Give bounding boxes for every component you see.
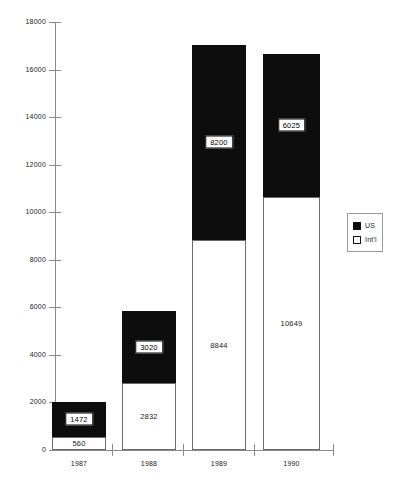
legend-swatch-us-icon <box>353 222 361 230</box>
y-axis-tick-label-text: 18000 <box>12 18 46 26</box>
x-axis-tick <box>183 444 184 456</box>
legend-item-us: US <box>353 219 382 233</box>
data-label-us-1987: 1472 <box>65 413 93 426</box>
y-axis-tick-label: 10000 <box>8 208 46 216</box>
stacked-bar-chart: 0200040006000800010000120001400016000180… <box>0 0 393 483</box>
y-axis-tick-label-text: 12000 <box>12 161 46 169</box>
y-axis-tick-label-text: 4000 <box>12 351 46 359</box>
legend-item-intl: Int'l <box>353 233 382 247</box>
x-axis-tick <box>112 444 113 456</box>
bar-segment-intl-1987: 560 <box>52 437 106 450</box>
bar-segment-intl-1990: 10649 <box>263 197 320 450</box>
y-axis-tick-label: 2000 <box>8 398 46 406</box>
bar-segment-us-1988: 3020 <box>122 311 176 383</box>
x-axis-category-label: 1988 <box>114 459 184 468</box>
data-label-intl-1990: 10649 <box>281 319 303 328</box>
bar-1990: 106496025 <box>263 22 320 450</box>
data-label-intl-1989: 8844 <box>210 340 228 349</box>
y-axis-tick-label: 14000 <box>8 113 46 121</box>
y-axis-tick-label-text: 2000 <box>12 398 46 406</box>
y-axis-tick-label: 12000 <box>8 161 46 169</box>
x-axis-category-label: 1989 <box>184 459 254 468</box>
bar-segment-us-1989: 8200 <box>192 45 246 240</box>
bar-segment-us-1987: 1472 <box>52 402 106 437</box>
legend-label-us: US <box>365 222 375 230</box>
data-label-intl-1987: 560 <box>72 439 85 448</box>
y-axis-tick <box>49 450 61 451</box>
y-axis-tick-label-text: 10000 <box>12 208 46 216</box>
bar-segment-intl-1988: 2832 <box>122 383 176 450</box>
data-label-us-1990: 6025 <box>278 119 306 132</box>
data-label-us-1988: 3020 <box>135 340 163 353</box>
bar-segment-intl-1989: 8844 <box>192 240 246 450</box>
y-axis-tick-label: 0 <box>8 446 46 454</box>
y-axis-tick-label: 8000 <box>8 256 46 264</box>
y-axis-tick-label-text: 16000 <box>12 66 46 74</box>
x-axis-tick <box>254 444 255 456</box>
x-axis-line <box>55 450 334 451</box>
legend-label-intl: Int'l <box>365 236 377 244</box>
x-axis-category-label: 1987 <box>44 459 114 468</box>
bar-1988: 28323020 <box>122 22 176 450</box>
y-axis-tick-label-text: 8000 <box>12 256 46 264</box>
y-axis-tick-label: 6000 <box>8 303 46 311</box>
y-axis-tick-label: 16000 <box>8 66 46 74</box>
bar-1989: 88448200 <box>192 22 246 450</box>
data-label-intl-1988: 2832 <box>140 412 158 421</box>
y-axis-tick-label-text: 0 <box>12 446 46 454</box>
y-axis-tick-label: 4000 <box>8 351 46 359</box>
y-axis-tick-label-text: 6000 <box>12 303 46 311</box>
chart-legend: US Int'l <box>347 213 383 252</box>
bar-1987: 5601472 <box>52 22 106 450</box>
x-axis-category-label: 1990 <box>257 459 327 468</box>
bar-segment-us-1990: 6025 <box>263 54 320 197</box>
y-axis-tick-label: 18000 <box>8 18 46 26</box>
y-axis-tick-label-text: 14000 <box>12 113 46 121</box>
data-label-us-1989: 8200 <box>205 136 233 149</box>
legend-swatch-intl-icon <box>353 236 361 244</box>
x-axis-tick <box>333 444 334 456</box>
